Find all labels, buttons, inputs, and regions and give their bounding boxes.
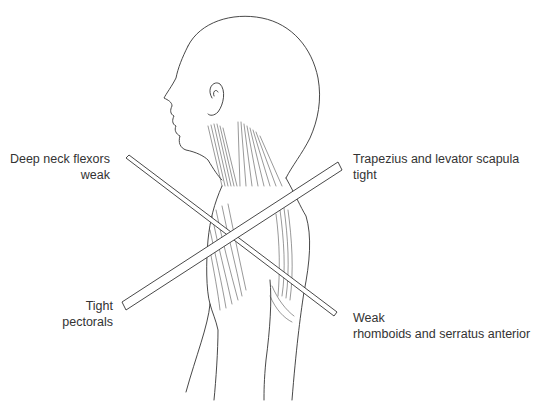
anatomy-illustration [0, 0, 544, 410]
face-profile [164, 46, 222, 180]
label-line: Trapezius and levator scapula [353, 151, 519, 167]
label-trapezius: Trapezius and levator scapula tight [353, 151, 519, 183]
label-line: tight [353, 167, 519, 183]
label-line: Deep neck flexors [0, 151, 110, 167]
label-line: Tight [0, 298, 113, 314]
arm-front [210, 304, 218, 400]
label-line: pectorals [0, 314, 113, 330]
label-tight-pectorals: Tight pectorals [0, 298, 113, 330]
label-line: rhomboids and serratus anterior [353, 326, 530, 342]
head-outline [188, 16, 320, 178]
label-deep-neck-flexors: Deep neck flexors weak [0, 151, 110, 183]
label-line: weak [0, 167, 110, 183]
label-line: Weak [353, 310, 530, 326]
arm-back [264, 280, 271, 400]
ear [208, 83, 224, 115]
label-weak-rhomboids: Weak rhomboids and serratus anterior [353, 310, 530, 342]
